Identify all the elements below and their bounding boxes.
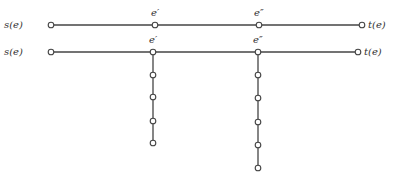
e-prime-label: e′: [151, 7, 160, 18]
start-node: [48, 49, 54, 55]
node-e-prime: [152, 22, 158, 28]
branch-node: [255, 142, 261, 148]
node-e-double-prime: [256, 22, 262, 28]
branch-node: [255, 119, 261, 125]
row-1-path: s(e) t(e) e′ e″: [4, 7, 386, 30]
end-node: [359, 22, 365, 28]
branch-node: [150, 140, 156, 146]
branch-node: [150, 118, 156, 124]
branch-node: [150, 94, 156, 100]
graph-diagram: s(e) t(e) e′ e″ s(e) t(e) e′ e″: [0, 0, 404, 179]
start-label: s(e): [4, 46, 23, 57]
node-e-double-prime: [255, 49, 261, 55]
branch-node: [150, 72, 156, 78]
end-label: t(e): [364, 46, 382, 57]
node-e-prime: [150, 49, 156, 55]
row-2-path: s(e) t(e) e′ e″: [4, 34, 382, 171]
end-node: [355, 49, 361, 55]
branch-node: [255, 95, 261, 101]
branch-node: [255, 165, 261, 171]
start-node: [48, 22, 54, 28]
start-label: s(e): [4, 19, 23, 30]
e-prime-label: e′: [149, 34, 158, 45]
e-double-prime-label: e″: [254, 7, 264, 18]
end-label: t(e): [368, 19, 386, 30]
e-double-prime-label: e″: [253, 34, 263, 45]
branch-node: [255, 72, 261, 78]
